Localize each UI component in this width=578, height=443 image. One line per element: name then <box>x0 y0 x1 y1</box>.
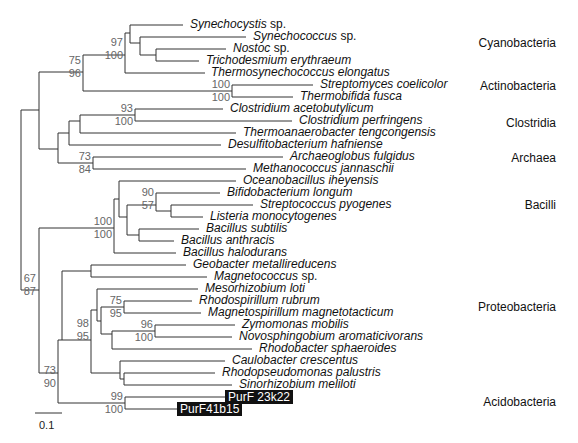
bootstrap-value-top: 75 <box>57 55 81 66</box>
bootstrap-value-top: 67 <box>12 273 36 284</box>
taxonomic-group-label: Acidobacteria <box>483 396 556 408</box>
bootstrap-value-top: 97 <box>99 37 123 48</box>
bootstrap-value-top: 90 <box>130 187 154 198</box>
taxonomic-group-label: Cyanobacteria <box>479 37 556 49</box>
bootstrap-value-top: 99 <box>99 391 123 402</box>
bootstrap-value-top: 98 <box>65 318 89 329</box>
bootstrap-value-bottom: 100 <box>99 404 123 415</box>
bootstrap-value-top: 73 <box>32 365 56 376</box>
bootstrap-value-bottom: 100 <box>129 332 153 343</box>
bootstrap-value-top: 100 <box>206 79 230 90</box>
bootstrap-value-bottom: 95 <box>65 331 89 342</box>
bootstrap-value-bottom: 100 <box>206 92 230 103</box>
bootstrap-value-top: 73 <box>67 151 91 162</box>
bootstrap-value-bottom: 100 <box>88 229 112 240</box>
bootstrap-value-top: 75 <box>98 295 122 306</box>
bootstrap-value-bottom: 84 <box>67 164 91 175</box>
taxonomic-group-label: Proteobacteria <box>478 301 556 313</box>
bootstrap-value-bottom: 95 <box>98 308 122 319</box>
taxonomic-group-label: Archaea <box>511 152 556 164</box>
bootstrap-value-bottom: 96 <box>57 68 81 79</box>
bootstrap-value-top: 96 <box>129 319 153 330</box>
taxon-label: Sinorhizobium meliloti <box>239 378 356 390</box>
bootstrap-value-bottom: 100 <box>99 50 123 61</box>
scale-bar-label: 0.1 <box>39 419 54 431</box>
taxonomic-group-label: Actinobacteria <box>480 80 556 92</box>
bootstrap-value-bottom: 100 <box>109 116 133 127</box>
taxonomic-group-label: Bacilli <box>525 199 556 211</box>
bootstrap-value-bottom: 87 <box>12 286 36 297</box>
bootstrap-value-top: 100 <box>88 216 112 227</box>
highlighted-taxon-label: PurF41b15 <box>177 402 242 416</box>
bootstrap-value-bottom: 90 <box>32 378 56 389</box>
bootstrap-value-bottom: 57 <box>130 200 154 211</box>
bootstrap-value-top: 93 <box>109 103 133 114</box>
taxonomic-group-label: Clostridia <box>506 117 556 129</box>
